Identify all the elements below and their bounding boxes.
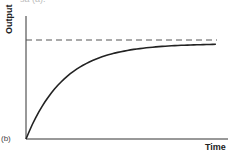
- y-axis-label: Output: [4, 5, 14, 35]
- panel-label: (b): [1, 134, 11, 143]
- x-axis-label: Time: [205, 142, 226, 152]
- chart-plot: [0, 0, 233, 158]
- output-curve: [26, 44, 216, 139]
